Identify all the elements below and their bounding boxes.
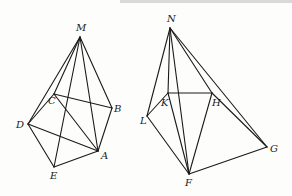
- edge-EA: [54, 151, 98, 167]
- vertex-label-K: K: [160, 97, 169, 108]
- edge-HF: [189, 93, 212, 174]
- edge-MA: [80, 37, 98, 151]
- edge-MD: [28, 37, 80, 124]
- pyramid-N: NKHLGF: [139, 13, 278, 188]
- vertex-label-C: C: [48, 95, 56, 106]
- vertex-label-G: G: [270, 143, 278, 154]
- edge-BA: [98, 108, 112, 151]
- geometry-diagram: MCBDAE NKHLGF: [0, 0, 292, 196]
- vertex-label-L: L: [139, 115, 147, 126]
- vertex-label-E: E: [49, 170, 58, 181]
- vertex-label-H: H: [211, 97, 221, 108]
- edge-MB: [80, 37, 112, 108]
- edge-KF: [168, 93, 189, 174]
- vertex-label-F: F: [184, 177, 193, 188]
- edge-MC: [54, 37, 80, 94]
- vertex-label-A: A: [100, 150, 108, 161]
- vertex-label-B: B: [113, 103, 121, 114]
- edge-FG: [189, 147, 267, 174]
- vertex-label-M: M: [75, 22, 87, 33]
- edge-ME: [54, 37, 80, 167]
- edge-DE: [28, 124, 54, 167]
- vertex-label-N: N: [166, 13, 177, 24]
- edge-NG: [170, 28, 267, 147]
- pyramids-figure: MCBDAE NKHLGF: [0, 0, 292, 196]
- edge-NK: [168, 28, 170, 93]
- edge-NH: [170, 28, 212, 93]
- pyramid-M: MCBDAE: [15, 22, 121, 181]
- vertex-label-D: D: [15, 119, 24, 130]
